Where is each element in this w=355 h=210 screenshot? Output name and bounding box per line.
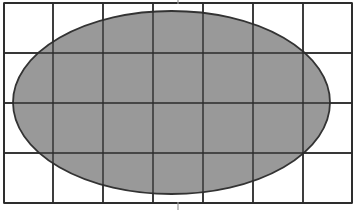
geometry-diagram xyxy=(0,0,355,210)
figure-canvas xyxy=(0,0,355,210)
